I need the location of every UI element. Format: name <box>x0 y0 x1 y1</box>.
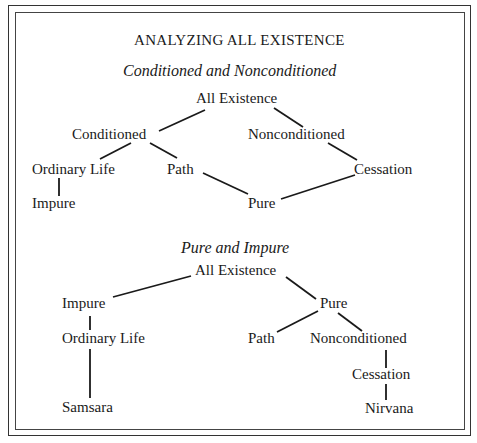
node2-nonconditioned: Nonconditioned <box>310 331 407 346</box>
node-impure: Impure <box>32 196 75 211</box>
edge-all-conditioned <box>159 110 205 131</box>
edge2-all-pure <box>286 277 316 299</box>
edge2-pure-nonconditioned <box>338 313 362 331</box>
node2-all-existence: All Existence <box>195 263 276 278</box>
node-cessation: Cessation <box>354 162 412 177</box>
edge-conditioned-path <box>150 143 177 158</box>
edge-conditioned-ordinary <box>100 143 131 159</box>
diagram2-subtitle: Pure and Impure <box>181 240 289 256</box>
node-path: Path <box>167 162 194 177</box>
node2-pure: Pure <box>320 296 348 311</box>
node2-ordinary-life: Ordinary Life <box>62 331 145 346</box>
edge2-pure-path <box>277 311 318 332</box>
node-conditioned: Conditioned <box>72 127 146 142</box>
node-pure: Pure <box>248 196 276 211</box>
node2-nirvana: Nirvana <box>365 401 413 416</box>
node2-samsara: Samsara <box>62 400 113 415</box>
edge-nonconditioned-cessation <box>328 143 357 160</box>
node2-impure: Impure <box>62 296 105 311</box>
diagram1-subtitle: Conditioned and Nonconditioned <box>123 63 336 79</box>
node2-path: Path <box>248 331 275 346</box>
edge-path-pure <box>203 173 248 194</box>
edge2-all-impure <box>113 276 191 297</box>
node-ordinary-life: Ordinary Life <box>32 162 115 177</box>
node-nonconditioned: Nonconditioned <box>248 127 345 142</box>
node2-cessation: Cessation <box>352 367 410 382</box>
node-all-existence: All Existence <box>196 91 277 106</box>
diagram-title: ANALYZING ALL EXISTENCE <box>134 33 345 48</box>
edge-cessation-pure <box>281 175 355 199</box>
edge-all-nonconditioned <box>274 108 303 127</box>
